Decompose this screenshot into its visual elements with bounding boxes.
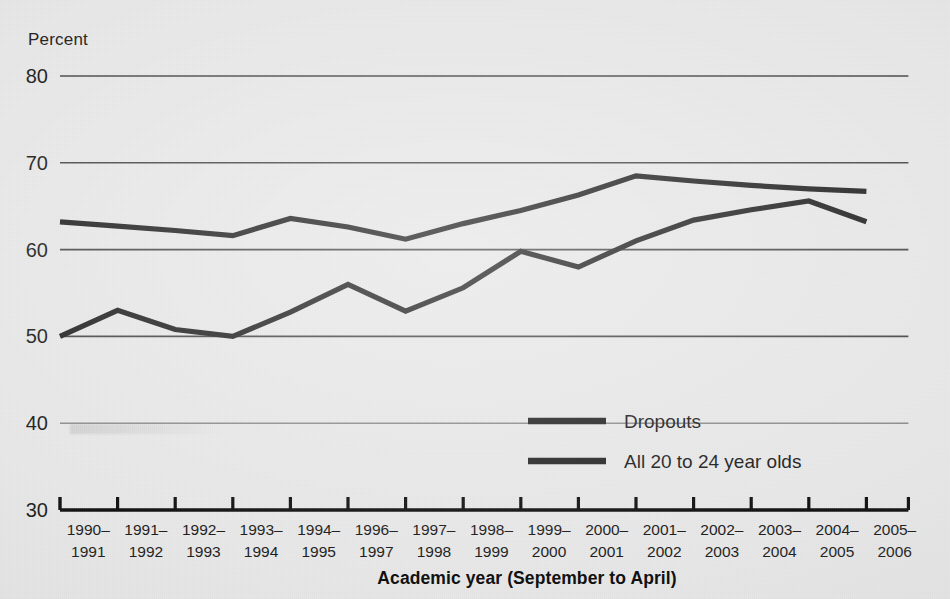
y-tick-label-50: 50 xyxy=(26,325,48,347)
x-axis-title: Academic year (September to April) xyxy=(0,568,950,589)
x-tick-label-6-line2: 1998 xyxy=(417,543,451,560)
x-tick-label-4-line2: 1995 xyxy=(301,543,335,560)
x-tick-label-5-line1: 1996– xyxy=(355,521,398,538)
x-tick-label-14-line2: 2006 xyxy=(877,543,911,560)
x-tick-labels-group: 1990–19911991–19921992–19931993–19941994… xyxy=(67,521,917,560)
y-tick-labels-group: 304050607080 xyxy=(26,65,48,521)
legend-label-1: All 20 to 24 year olds xyxy=(624,451,801,472)
chart-container: Percent 304050607080 1990–19911991–19921… xyxy=(0,0,950,599)
series-lines-group xyxy=(60,176,866,337)
x-tick-label-11-line2: 2003 xyxy=(705,543,739,560)
x-tick-label-6-line1: 1997– xyxy=(412,521,455,538)
x-axis-title-text: Academic year (September to April) xyxy=(377,568,676,589)
x-tick-label-8-line2: 2000 xyxy=(532,543,567,560)
y-tick-label-70: 70 xyxy=(26,152,48,174)
x-tick-label-13-line2: 2005 xyxy=(820,543,854,560)
x-tick-label-3-line1: 1993– xyxy=(240,521,283,538)
gridlines-group xyxy=(60,76,908,423)
x-tick-label-9-line1: 2000– xyxy=(585,521,628,538)
x-tick-label-5-line2: 1997 xyxy=(359,543,393,560)
x-tick-label-9-line2: 2001 xyxy=(589,543,623,560)
x-tick-label-1-line1: 1991– xyxy=(124,521,167,538)
x-tick-label-10-line2: 2002 xyxy=(647,543,681,560)
x-tick-label-3-line2: 1994 xyxy=(244,543,279,560)
y-tick-label-80: 80 xyxy=(26,65,48,87)
y-tick-label-40: 40 xyxy=(26,412,48,434)
x-tick-label-12-line1: 2003– xyxy=(758,521,801,538)
x-tick-label-8-line1: 1999– xyxy=(528,521,571,538)
x-tick-label-10-line1: 2001– xyxy=(643,521,686,538)
x-tick-label-4-line1: 1994– xyxy=(297,521,340,538)
x-tick-label-0-line1: 1990– xyxy=(67,521,110,538)
axes-group xyxy=(60,497,908,510)
legend-label-0: Dropouts xyxy=(624,411,701,432)
series-line-all-20-to-24-year-olds xyxy=(60,176,866,239)
x-tick-label-2-line2: 1993 xyxy=(186,543,220,560)
x-tick-label-1-line2: 1992 xyxy=(129,543,163,560)
x-tick-label-7-line1: 1998– xyxy=(470,521,513,538)
x-tick-label-14-line1: 2005– xyxy=(873,521,916,538)
x-tick-label-2-line1: 1992– xyxy=(182,521,225,538)
line-chart-plot: 304050607080 1990–19911991–19921992–1993… xyxy=(0,0,950,599)
x-tick-label-11-line1: 2002– xyxy=(700,521,743,538)
x-tick-label-0-line2: 1991 xyxy=(71,543,105,560)
y-tick-label-60: 60 xyxy=(26,239,48,261)
x-tick-label-12-line2: 2004 xyxy=(762,543,797,560)
x-tick-label-7-line2: 1999 xyxy=(474,543,508,560)
y-tick-label-30: 30 xyxy=(26,499,48,521)
x-tick-label-13-line1: 2004– xyxy=(816,521,859,538)
legend-group: DropoutsAll 20 to 24 year olds xyxy=(528,411,801,472)
